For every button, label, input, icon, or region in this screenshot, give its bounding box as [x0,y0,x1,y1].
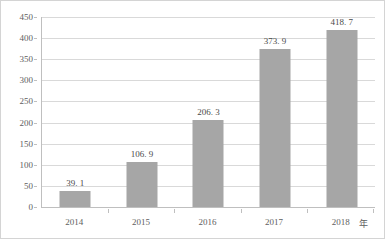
bar-group[interactable]: 206. 3 [175,17,242,207]
y-tick-label: 50 [24,181,33,191]
x-axis: 20142015201620172018 [41,209,375,231]
x-tick-label: 2015 [132,217,150,227]
y-axis: 050100150200250300350400450 [1,17,37,208]
bar-group[interactable]: 373. 9 [242,17,309,207]
bar-group[interactable]: 39. 1 [42,17,109,207]
bar-group[interactable]: 106. 9 [109,17,176,207]
plot-area: 39. 1106. 9206. 3373. 9418. 7 [41,17,375,208]
y-tick-label: 100 [20,160,34,170]
y-tick-label: 350 [20,54,34,64]
bar[interactable] [193,120,224,207]
bar-value-label: 106. 9 [131,149,154,159]
y-tick-mark [34,59,37,60]
y-tick-mark [34,207,37,208]
y-tick-label: 250 [20,96,34,106]
bar-value-label: 39. 1 [66,178,84,188]
y-tick-label: 200 [20,118,34,128]
y-tick-label: 0 [29,202,34,212]
y-tick-mark [34,17,37,18]
bar[interactable] [60,191,91,208]
x-tick-mark [307,209,308,213]
x-axis-unit-label: 年 [359,217,368,230]
bar[interactable] [326,30,357,207]
bar-value-label: 373. 9 [264,36,287,46]
chart-frame: 050100150200250300350400450 39. 1106. 92… [0,0,385,239]
y-tick-label: 400 [20,33,34,43]
x-tick-mark [108,209,109,213]
y-tick-mark [34,123,37,124]
y-tick-mark [34,165,37,166]
bar-value-label: 418. 7 [330,17,353,27]
bar-value-label: 206. 3 [197,107,220,117]
y-tick-label: 450 [20,12,34,22]
bar-group[interactable]: 418. 7 [308,17,375,207]
y-tick-mark [34,101,37,102]
x-tick-mark [373,209,374,213]
x-tick-label: 2017 [265,217,283,227]
y-tick-label: 150 [20,139,34,149]
bar[interactable] [126,162,157,207]
y-tick-mark [34,38,37,39]
x-tick-mark [174,209,175,213]
bar[interactable] [260,49,291,207]
y-tick-label: 300 [20,75,34,85]
x-tick-label: 2016 [199,217,217,227]
y-tick-mark [34,80,37,81]
y-tick-mark [34,144,37,145]
y-tick-mark [34,186,37,187]
x-tick-mark [241,209,242,213]
x-tick-label: 2014 [65,217,83,227]
x-tick-label: 2018 [332,217,350,227]
